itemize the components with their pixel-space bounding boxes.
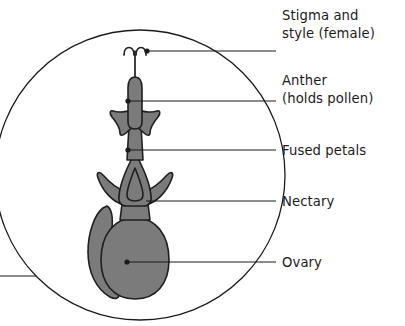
label-anther-line1: Anther bbox=[282, 73, 328, 88]
flower-cross-section-diagram: Stigma and style (female) Anther (holds … bbox=[0, 0, 405, 326]
label-fused-petals: Fused petals bbox=[282, 143, 366, 158]
leader-dot-ovary bbox=[124, 259, 129, 264]
label-ovary: Ovary bbox=[282, 255, 322, 270]
filament-tube bbox=[127, 126, 143, 160]
ovary bbox=[101, 218, 169, 299]
leader-dot-stigma-style bbox=[144, 48, 149, 53]
leader-dot-anther bbox=[125, 98, 130, 103]
label-nectary: Nectary bbox=[282, 194, 335, 209]
label-anther-line2: (holds pollen) bbox=[282, 91, 373, 106]
label-stigma-style-line2: style (female) bbox=[282, 26, 375, 41]
label-stigma-style-line1: Stigma and bbox=[282, 8, 359, 23]
leader-dot-fused-petals bbox=[125, 147, 130, 152]
labels-group: Stigma and style (female) Anther (holds … bbox=[282, 8, 375, 270]
anther bbox=[128, 77, 142, 129]
flower-diagram-container: Stigma and style (female) Anther (holds … bbox=[0, 0, 405, 326]
